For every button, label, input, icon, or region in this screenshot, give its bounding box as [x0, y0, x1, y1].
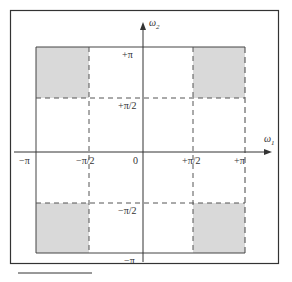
shaded-region-top-left: [36, 47, 89, 98]
w1-axis-arrowhead-icon: [264, 149, 272, 155]
w1-symbol: ω: [264, 133, 271, 144]
w2-axis-arrowhead-icon: [140, 22, 146, 30]
w2-symbol: ω: [149, 17, 156, 28]
tick-x-neg-half-pi: −π/2: [76, 156, 94, 166]
tick-x-neg-pi: −π: [19, 156, 30, 166]
tick-y-neg-half-pi: −π/2: [118, 206, 136, 216]
frequency-diagram: [0, 0, 292, 282]
tick-x-zero: 0: [133, 156, 138, 166]
w1-axis-label: ω1: [264, 134, 275, 147]
tick-x-pos-half-pi: +π/2: [182, 156, 200, 166]
shaded-region-bottom-left: [36, 203, 89, 253]
tick-y-neg-pi: −π: [124, 256, 135, 266]
w2-subscript: 2: [156, 23, 160, 31]
tick-y-pos-pi: +π: [122, 50, 133, 60]
tick-y-pos-half-pi: +π/2: [118, 101, 136, 111]
w1-subscript: 1: [271, 139, 275, 147]
tick-x-pos-pi: +π: [234, 156, 245, 166]
shaded-region-top-right: [193, 47, 245, 98]
shaded-region-bottom-right: [193, 203, 245, 253]
w2-axis-label: ω2: [149, 18, 160, 31]
